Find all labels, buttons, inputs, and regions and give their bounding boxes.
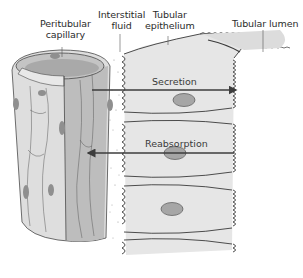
- label-tubular-epithelium: Tubular epithelium: [145, 9, 195, 31]
- label-fluid-line2: fluid: [98, 20, 145, 31]
- label-peritubular-capillary: Peritubular capillary: [40, 18, 91, 40]
- label-interstitial-fluid: Interstitial fluid: [98, 9, 145, 31]
- label-interstitial-line1: Interstitial: [98, 9, 145, 20]
- interstitial-fluid-stipple: [110, 59, 120, 238]
- nucleus-cell-1: [173, 94, 195, 107]
- label-tubular-lumen: Tubular lumen: [232, 18, 298, 29]
- label-capillary-line2: capillary: [40, 29, 91, 40]
- secretion-label: Secretion: [152, 76, 197, 87]
- label-tubular-line1: Tubular: [145, 9, 195, 20]
- peritubular-capillary: [12, 50, 113, 242]
- diagram: Peritubular capillary Interstitial fluid…: [0, 0, 303, 278]
- capillary-nucleus: [50, 53, 60, 59]
- nucleus-cell-3: [161, 203, 183, 216]
- label-epithelium-line2: epithelium: [145, 20, 195, 31]
- label-peritubular-line1: Peritubular: [40, 18, 91, 29]
- reabsorption-label: Reabsorption: [145, 138, 208, 149]
